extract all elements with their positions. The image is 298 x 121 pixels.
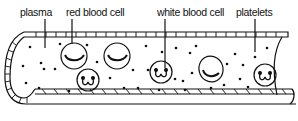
- vessel-bottom-wall: [35, 89, 294, 104]
- platelets: [22, 43, 269, 93]
- white-blood-cell: [254, 64, 276, 86]
- red-blood-cell: [104, 43, 130, 69]
- white-blood-cell: [150, 61, 172, 83]
- red-blood-cell: [196, 53, 226, 84]
- blood-vessel-diagram: [0, 0, 298, 121]
- white-blood-cell: [77, 69, 99, 91]
- red-blood-cell: [61, 43, 87, 69]
